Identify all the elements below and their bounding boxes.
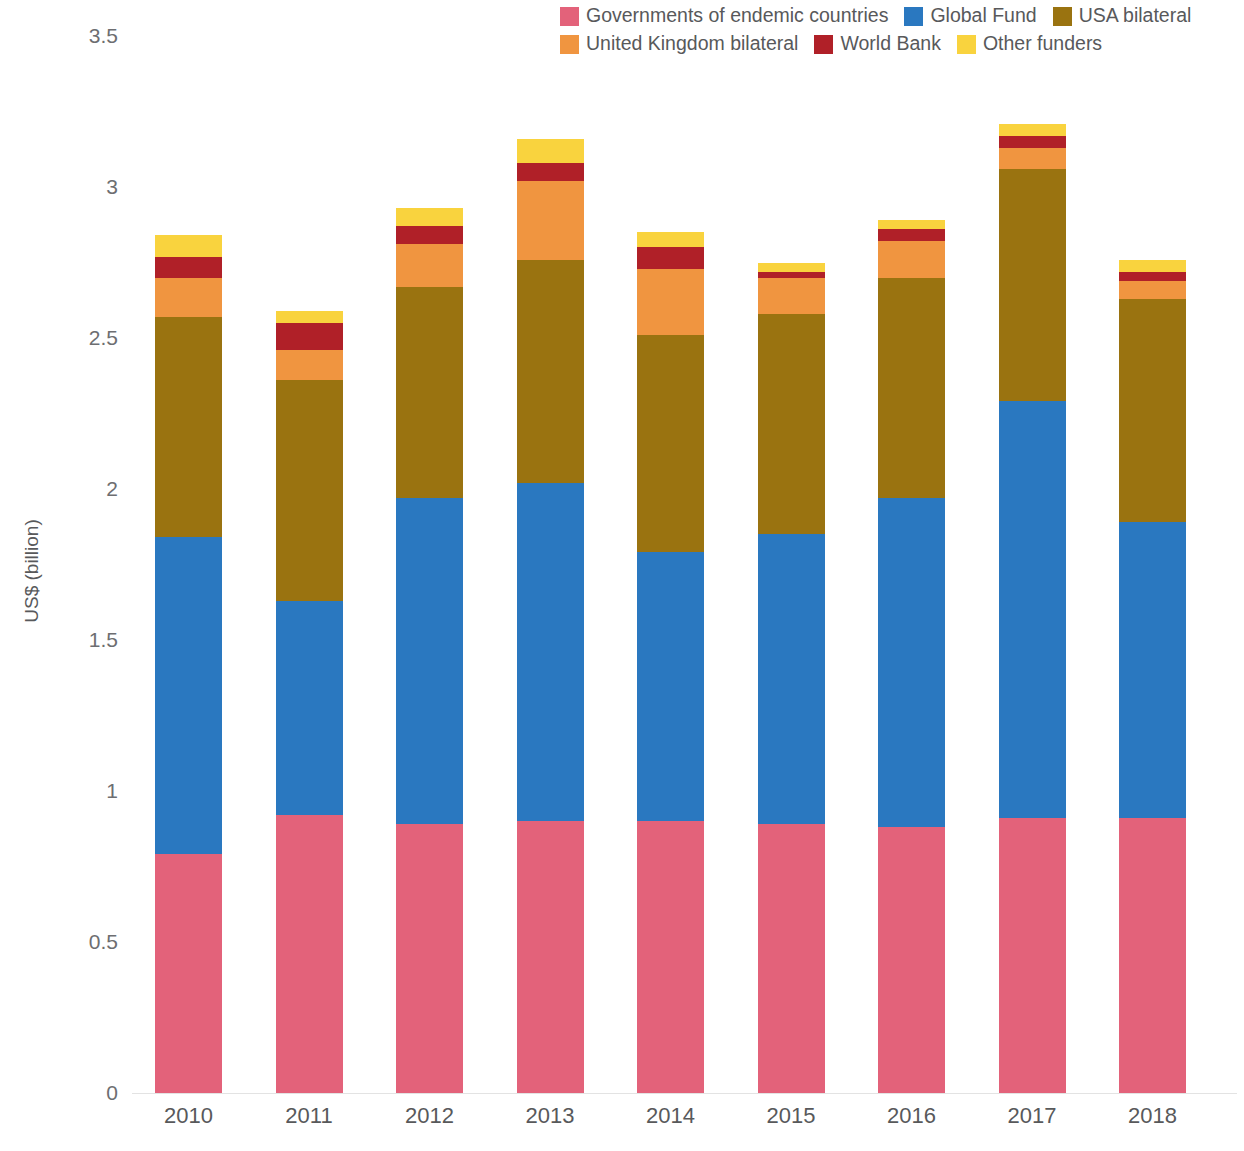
x-axis-tick-label-2010: 2010 [155,1103,222,1129]
bar-segment[interactable] [999,818,1066,1093]
x-axis-tick-label-2011: 2011 [276,1103,343,1129]
bar-segment[interactable] [396,498,463,824]
bar-segment[interactable] [758,263,825,272]
y-axis-title: US$ (billion) [21,491,43,651]
y-axis-tick-label: 3.5 [0,24,118,48]
bar-segment[interactable] [1119,272,1186,281]
bar-segment[interactable] [637,269,704,335]
bar-segment[interactable] [758,534,825,824]
bar-segment[interactable] [878,827,945,1093]
bar-2011[interactable] [276,311,343,1093]
bar-segment[interactable] [276,350,343,380]
bar-segment[interactable] [1119,522,1186,818]
bar-segment[interactable] [999,169,1066,402]
bar-segment[interactable] [517,483,584,821]
bar-segment[interactable] [517,139,584,163]
bar-segment[interactable] [637,232,704,247]
bar-2013[interactable] [517,139,584,1093]
bar-segment[interactable] [1119,281,1186,299]
bar-segment[interactable] [637,247,704,268]
y-axis-tick-label: 1 [0,779,118,803]
bar-segment[interactable] [276,815,343,1093]
y-axis-tick-label: 2.5 [0,326,118,350]
bar-2015[interactable] [758,263,825,1093]
y-axis-tick-label: 0.5 [0,930,118,954]
bar-segment[interactable] [999,401,1066,818]
bar-segment[interactable] [155,278,222,317]
bar-segment[interactable] [878,229,945,241]
bar-segment[interactable] [155,854,222,1093]
bar-segment[interactable] [276,380,343,600]
x-axis-tick-label-2015: 2015 [758,1103,825,1129]
bar-segment[interactable] [878,278,945,498]
bar-segment[interactable] [517,163,584,181]
bar-segment[interactable] [999,136,1066,148]
bar-segment[interactable] [999,148,1066,169]
x-axis-tick-label-2013: 2013 [517,1103,584,1129]
bar-segment[interactable] [155,257,222,278]
bar-segment[interactable] [396,226,463,244]
bar-segment[interactable] [758,314,825,534]
bar-segment[interactable] [637,335,704,552]
bar-segment[interactable] [517,260,584,483]
bar-segment[interactable] [878,241,945,277]
bar-segment[interactable] [276,601,343,815]
y-axis-tick-label: 2 [0,477,118,501]
bar-segment[interactable] [155,317,222,537]
x-axis-tick-label-2018: 2018 [1119,1103,1186,1129]
stacked-bar-chart: US$ (billion) 00.511.522.533.5 201020112… [0,0,1244,1151]
bar-segment[interactable] [155,235,222,256]
bar-segment[interactable] [1119,299,1186,522]
bar-segment[interactable] [1119,818,1186,1093]
y-axis-tick-label: 0 [0,1081,118,1105]
y-axis-tick-label: 3 [0,175,118,199]
bar-segment[interactable] [155,537,222,854]
bar-segment[interactable] [637,821,704,1093]
bar-segment[interactable] [396,287,463,498]
bar-segment[interactable] [396,208,463,226]
bar-2012[interactable] [396,208,463,1093]
bar-segment[interactable] [396,244,463,286]
bar-2010[interactable] [155,235,222,1093]
bar-segment[interactable] [637,552,704,821]
bar-2018[interactable] [1119,260,1186,1093]
x-axis-tick-label-2017: 2017 [999,1103,1066,1129]
bar-segment[interactable] [276,311,343,323]
bar-segment[interactable] [1119,260,1186,272]
x-axis-tick-label-2012: 2012 [396,1103,463,1129]
bar-segment[interactable] [276,323,343,350]
bar-segment[interactable] [758,824,825,1093]
bar-segment[interactable] [999,124,1066,136]
bar-2017[interactable] [999,124,1066,1093]
bar-2016[interactable] [878,220,945,1093]
x-axis-tick-label-2016: 2016 [878,1103,945,1129]
bar-segment[interactable] [517,181,584,260]
bar-segment[interactable] [878,498,945,827]
bar-segment[interactable] [878,220,945,229]
x-axis-line [132,1093,1237,1094]
y-axis-tick-label: 1.5 [0,628,118,652]
x-axis-tick-label-2014: 2014 [637,1103,704,1129]
bar-segment[interactable] [396,824,463,1093]
bar-2014[interactable] [637,232,704,1093]
bar-segment[interactable] [517,821,584,1093]
bar-segment[interactable] [758,278,825,314]
